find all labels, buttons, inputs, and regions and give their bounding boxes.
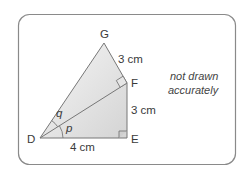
vertex-label-F: F (131, 77, 138, 89)
vertex-label-G: G (100, 28, 109, 40)
vertex-label-E: E (131, 133, 139, 145)
diagram-canvas: G F E D 3 cm 3 cm 4 cm q p not drawn acc… (0, 0, 246, 174)
note-line-1: not drawn (170, 70, 218, 82)
length-label-GF: 3 cm (118, 53, 143, 65)
angle-label-q: q (56, 107, 63, 119)
angle-label-p: p (65, 122, 73, 134)
length-label-FE: 3 cm (131, 104, 156, 116)
vertex-label-D: D (27, 133, 35, 145)
length-label-DE: 4 cm (70, 141, 95, 153)
note-line-2: accurately (168, 84, 220, 96)
